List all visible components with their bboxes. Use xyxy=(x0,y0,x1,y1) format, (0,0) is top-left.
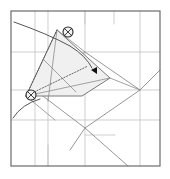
crease-pattern-canvas xyxy=(0,0,170,179)
reference-point-top[interactable] xyxy=(63,27,73,37)
crease-pattern-figure xyxy=(0,0,170,179)
reference-point-left[interactable] xyxy=(26,90,36,100)
